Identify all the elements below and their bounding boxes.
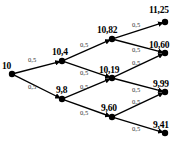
node-value-label: 11,25 <box>149 6 169 16</box>
lattice-diagram: 0,50,50,50,50,50,50,50,50,50,50,50,51010… <box>0 0 188 154</box>
edge-probability-label: 0,5 <box>132 87 140 94</box>
node-value-label: 10,4 <box>52 48 68 58</box>
edge-probability-label: 0,5 <box>132 47 140 54</box>
node-value-label: 9,41 <box>153 121 169 131</box>
node-value-label: 10 <box>2 62 11 72</box>
edge-probability-label: 0,5 <box>80 42 88 49</box>
edge-probability-label: 0,5 <box>80 84 88 91</box>
lattice-svg <box>0 0 188 154</box>
lattice-node <box>162 89 168 95</box>
node-value-label: 10,60 <box>149 41 169 51</box>
lattice-node <box>162 19 168 25</box>
edge-probability-label: 0,5 <box>132 99 140 106</box>
node-value-label: 9,8 <box>56 86 67 96</box>
edge-probability-label: 0,5 <box>80 70 88 77</box>
lattice-node <box>59 96 65 102</box>
lattice-node <box>59 58 65 64</box>
lattice-edge <box>15 75 60 98</box>
lattice-node <box>162 130 168 136</box>
edge-probability-label: 0,5 <box>28 84 36 91</box>
lattice-node <box>9 71 15 77</box>
lattice-node <box>162 50 168 56</box>
node-value-label: 9,99 <box>153 80 169 90</box>
lattice-node <box>109 75 115 81</box>
edges-group <box>15 23 163 133</box>
node-value-label: 9,60 <box>101 104 117 114</box>
node-value-label: 10,82 <box>97 26 117 36</box>
lattice-node <box>109 114 115 120</box>
edge-probability-label: 0,5 <box>28 57 36 64</box>
nodes-group <box>9 19 168 136</box>
edge-probability-label: 0,5 <box>132 126 140 133</box>
edge-probability-label: 0,5 <box>132 22 140 29</box>
lattice-edge <box>15 62 60 74</box>
edge-probability-label: 0,5 <box>132 60 140 67</box>
edge-probability-label: 0,5 <box>80 110 88 117</box>
node-value-label: 10,19 <box>99 66 119 76</box>
lattice-node <box>109 36 115 42</box>
